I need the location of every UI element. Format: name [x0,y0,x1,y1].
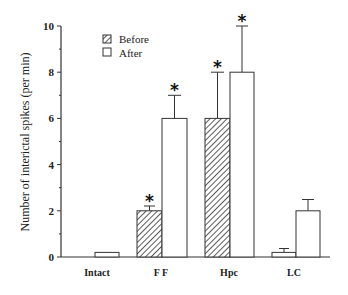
tick-10: 10 [43,20,55,32]
bar-lc-before [272,252,296,257]
group-ff: * * [137,80,187,257]
bar-lc-after [296,211,320,257]
bar-chart: Number of interictal spikes (per min) 10… [0,0,348,295]
group-lc [272,200,320,258]
sig-star-hpc-before: * [213,57,222,77]
category-lc: LC [287,267,301,278]
category-intact: Intact [84,267,110,278]
x-category-labels: Intact F F Hpc LC [84,267,301,278]
bar-ff-after [162,118,187,257]
y-axis-label: Number of interictal spikes (per min) [18,53,32,232]
bar-intact-after [95,252,119,257]
group-hpc: * * [205,11,254,257]
sig-star-ff-before: * [145,191,154,211]
sig-star-ff-after: * [170,80,179,100]
bar-hpc-before [205,118,230,257]
legend-after-swatch [103,48,111,56]
legend-before-swatch [103,35,111,43]
legend: Before After [103,33,149,59]
tick-4: 4 [49,159,55,171]
tick-0: 0 [49,251,55,263]
legend-after-label: After [119,47,143,59]
tick-6: 6 [49,112,55,124]
tick-2: 2 [49,205,55,217]
tick-8: 8 [49,66,55,78]
group-intact [95,252,119,257]
category-ff: F F [154,267,168,278]
bar-ff-before [137,211,162,257]
legend-before-label: Before [119,33,149,45]
category-hpc: Hpc [220,267,238,278]
bar-hpc-after [230,72,254,257]
sig-star-hpc-after: * [238,11,247,31]
y-tick-labels: 10 8 6 4 2 0 [43,20,55,263]
